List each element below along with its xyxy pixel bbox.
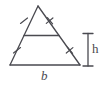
upper-left-tick-icon [21, 18, 28, 23]
base-label: b [41, 69, 48, 82]
height-label: h [92, 42, 99, 55]
geometry-figure: b h [0, 0, 108, 89]
lower-left-tick-icon [14, 48, 21, 53]
